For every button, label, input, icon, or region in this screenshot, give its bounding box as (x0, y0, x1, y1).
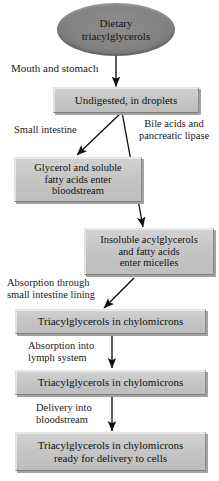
node-triacylglycerols-chylomicrons-1: Triacylglycerols in chylomicrons (15, 309, 206, 334)
label-absorption-through-lining: Absorption through small intestine linin… (7, 277, 95, 301)
label-bile-acids-pancreatic-lipase: Bile acids and pancreatic lipase (130, 118, 218, 142)
node-undigested-droplets: Undigested, in droplets (53, 87, 199, 113)
node-triacylglycerols-chylomicrons-2: Triacylglycerols in chylomicrons (15, 370, 206, 395)
arrow-insoluble-to-chylomicrons-1 (104, 278, 134, 308)
label-delivery-into-bloodstream: Delivery into bloodstream (36, 402, 92, 426)
node-glycerol-soluble-fatty-acids: Glycerol and soluble fatty acids enter b… (14, 157, 142, 202)
arrow-undigested-to-glycerol (77, 112, 122, 155)
node-dietary-triacylglycerols: Dietary triacylglycerols (57, 3, 175, 56)
label-absorption-into-lymph: Absorption into lymph system (28, 340, 94, 364)
node-insoluble-acylglycerols: Insoluble acylglycerols and fatty acids … (84, 228, 214, 275)
label-small-intestine: Small intestine (14, 124, 77, 136)
node-triacylglycerols-ready-for-delivery: Triacylglycerols in chylomicrons ready f… (15, 432, 206, 471)
label-mouth-and-stomach: Mouth and stomach (11, 62, 98, 75)
flowchart-diagram: Dietary triacylglycerols Undigested, in … (0, 0, 219, 481)
